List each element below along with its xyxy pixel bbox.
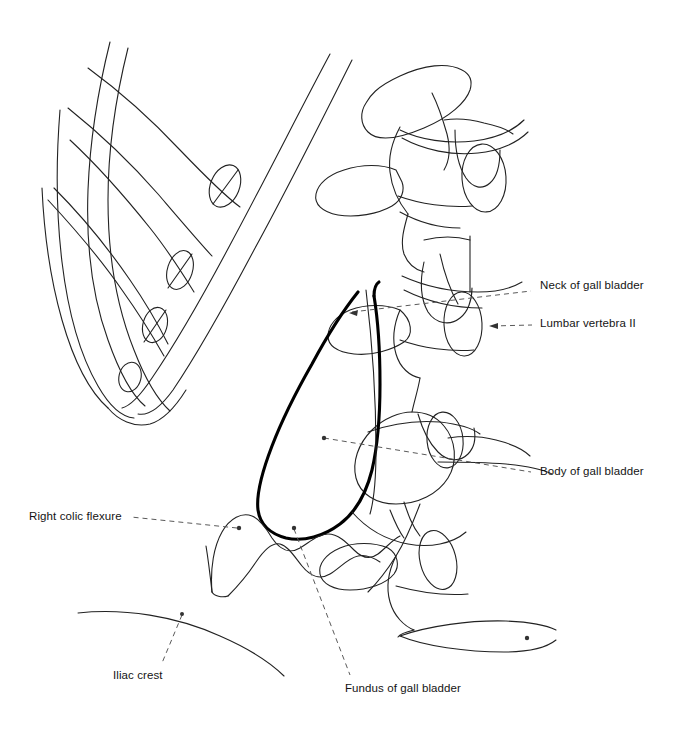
rib-arc-3 bbox=[70, 140, 194, 292]
costal-cartilage-ellipse-1 bbox=[203, 160, 246, 212]
costal-margin-inner bbox=[138, 60, 352, 414]
anatomy-drawing-canvas bbox=[0, 0, 673, 734]
leader-iliac-dot bbox=[180, 612, 184, 616]
costal-margin-outer bbox=[122, 54, 330, 408]
vertebra-l4-body bbox=[355, 412, 455, 504]
vertebra-l2-foramen bbox=[460, 143, 509, 214]
rib-arc-2 bbox=[68, 108, 212, 256]
leader-colic-dot bbox=[237, 526, 241, 530]
vertebra-l5-transverse-process bbox=[320, 544, 398, 591]
rib-shaft-2 bbox=[108, 48, 170, 411]
vertebra-l5-body-left bbox=[388, 556, 414, 630]
colon-ascending-2 bbox=[404, 502, 420, 536]
vertebra-l2-superior-endplate bbox=[400, 120, 524, 142]
vertebra-l4-l5-connector bbox=[368, 504, 420, 592]
vertebra-l1-body bbox=[432, 93, 449, 170]
leader-lines-group bbox=[131, 291, 532, 675]
vertebra-l3-foramen bbox=[442, 291, 483, 357]
lumbar-spine-group bbox=[316, 65, 556, 652]
vertebra-l2-inferior-endplate-2 bbox=[400, 212, 460, 228]
label-fundus-of-gall-bladder: Fundus of gall bladder bbox=[345, 683, 461, 695]
rib-shaft-1 bbox=[88, 42, 145, 406]
vertebra-l4-right-arch-2 bbox=[438, 462, 552, 474]
gall-bladder-group bbox=[258, 282, 380, 539]
leader-body-dot bbox=[322, 436, 326, 440]
label-right-colic-flexure: Right colic flexure bbox=[29, 511, 122, 523]
colic-flexure-descending bbox=[206, 546, 212, 592]
rib-shaft-4 bbox=[42, 188, 108, 408]
sacrum-end-dot bbox=[525, 636, 529, 640]
vertebra-l2-l3-connector bbox=[402, 214, 424, 272]
label-iliac-crest: Iliac crest bbox=[113, 670, 163, 682]
rib-arc-1 bbox=[88, 68, 240, 207]
iliac-crest-arc bbox=[78, 612, 284, 676]
vertebra-l4-right-arch bbox=[448, 437, 530, 456]
sacrum-lower-border bbox=[400, 636, 556, 652]
gall-bladder-neck bbox=[374, 282, 379, 296]
vertebra-l1-lamina bbox=[444, 119, 513, 134]
vertebra-l5-foramen bbox=[413, 527, 462, 594]
leader-lumbar-arrowhead bbox=[489, 323, 498, 329]
leader-neck-of-gall-bladder bbox=[352, 291, 531, 312]
vertebra-l3-pedicle bbox=[440, 254, 458, 304]
vertebra-l1-transverse-process bbox=[362, 65, 471, 138]
leader-fundus-dot bbox=[292, 526, 296, 530]
leader-iliac-crest bbox=[162, 615, 182, 663]
gall-bladder-outline bbox=[258, 292, 380, 539]
vertebra-l2-inferior-endplate bbox=[398, 196, 472, 207]
vertebra-l3-superior-endplate bbox=[402, 276, 522, 292]
leader-neck-arrowhead bbox=[349, 310, 358, 316]
vertebra-l3-body-left bbox=[394, 310, 420, 378]
vertebra-l3-transverse-process bbox=[328, 306, 410, 355]
vertebra-l3-l4-connector bbox=[412, 378, 420, 412]
colon-lower-border bbox=[228, 544, 380, 596]
vertebra-l3-inferior-endplate bbox=[400, 340, 474, 351]
anatomical-figure: Neck of gall bladder Lumbar vertebra II … bbox=[0, 0, 673, 734]
vertebra-l4-foramen bbox=[424, 410, 466, 469]
leader-right-colic-flexure bbox=[131, 517, 237, 528]
label-lumbar-vertebra-ii: Lumbar vertebra II bbox=[540, 318, 636, 330]
label-neck-of-gall-bladder: Neck of gall bladder bbox=[540, 280, 644, 292]
vertebra-l5-inferior-endplate bbox=[396, 586, 468, 595]
vertebra-l3-lamina bbox=[424, 237, 470, 240]
colic-flexure-tail bbox=[212, 592, 228, 597]
label-body-of-gall-bladder: Body of gall bladder bbox=[540, 466, 644, 478]
vertebra-l4-lamina bbox=[368, 421, 480, 434]
leader-fundus-of-gall-bladder bbox=[294, 529, 350, 675]
rib-arc-5 bbox=[54, 188, 168, 344]
sacrum-upper-border bbox=[400, 621, 556, 636]
rib-cage-group bbox=[42, 42, 352, 425]
colon-ascending-1 bbox=[390, 510, 404, 538]
vertebra-l2-superior-endplate-2 bbox=[402, 132, 528, 154]
costal-margin-tip bbox=[108, 390, 186, 425]
